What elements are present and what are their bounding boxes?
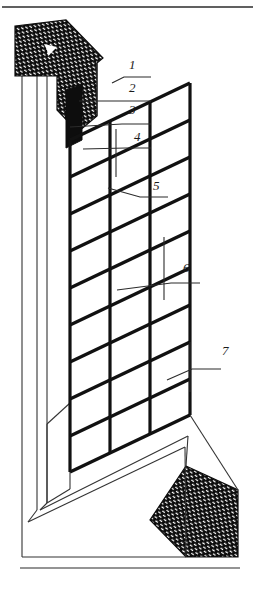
- mesh-horizontal-5: [70, 231, 190, 288]
- callout-label-7: 7: [222, 343, 229, 358]
- leader-7: [167, 369, 221, 380]
- callout-leaders: [70, 77, 221, 380]
- callout-label-1: 1: [129, 57, 136, 72]
- callout-label-2: 2: [129, 80, 136, 95]
- floor-top-surface: [47, 403, 70, 503]
- mesh-horizontal-4: [70, 194, 190, 251]
- upper-left-masonry-wedge: [15, 20, 103, 132]
- callout-labels: 1 2 3 4 5 6 7: [128, 57, 229, 358]
- mesh-horizontal-6: [70, 268, 190, 325]
- callout-label-5: 5: [153, 178, 160, 193]
- mesh-horizontal-9: [70, 379, 190, 436]
- callout-label-3: 3: [128, 102, 136, 117]
- figure-canvas: 1 2 3 4 5 6 7: [0, 0, 255, 591]
- lower-right-masonry-wedge: [150, 466, 238, 557]
- mesh-horizontal-8: [70, 342, 190, 399]
- leader-4: [83, 148, 151, 149]
- callout-label-6: 6: [183, 260, 190, 275]
- callout-label-4: 4: [134, 129, 141, 144]
- technical-drawing-svg: 1 2 3 4 5 6 7: [0, 0, 255, 591]
- mesh-horizontal-3: [70, 157, 190, 214]
- leader-6: [117, 283, 200, 290]
- reinforcing-mesh-horizontals: [70, 83, 190, 472]
- left-wall-outline: [22, 42, 47, 522]
- mesh-horizontal-7: [70, 305, 190, 362]
